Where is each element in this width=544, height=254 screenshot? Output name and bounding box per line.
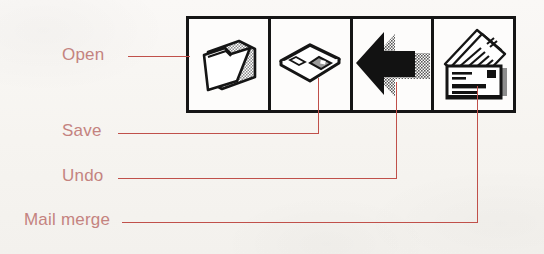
toolbar-button-open[interactable] [189,19,271,110]
callout-label-open: Open [62,46,104,63]
callout-leader-save-riser [318,78,319,134]
toolbar-button-save[interactable] [271,19,353,110]
callout-leader-undo-horizontal [118,178,397,179]
floppy-disk-icon [275,37,345,93]
toolbar-button-undo[interactable] [353,19,435,110]
callout-label-save: Save [62,122,102,139]
toolbar-button-mail-merge[interactable] [434,19,513,110]
open-folder-icon [195,32,261,98]
mail-merge-icon [437,26,511,104]
callout-leader-undo-riser [396,82,397,179]
callout-leader-mail-merge-riser [477,86,478,223]
callout-leader-mail-merge-horizontal [122,222,478,223]
toolbar [186,16,516,113]
figure-canvas: Open Save Undo Mail merge [0,0,544,254]
callout-leader-save-horizontal [118,133,318,134]
callout-label-undo: Undo [62,167,103,184]
undo-arrow-icon [353,29,431,101]
callout-label-mail-merge: Mail merge [24,211,110,228]
callout-leader-open [128,56,190,57]
